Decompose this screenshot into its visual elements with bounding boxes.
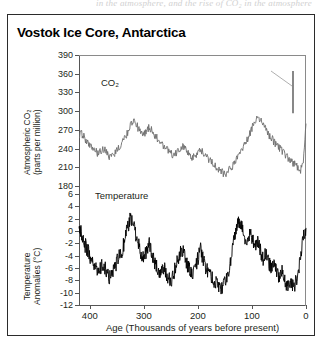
x-tick [252, 305, 253, 309]
co2-tick-label: 240 [58, 145, 73, 154]
x-tick-label: 0 [303, 311, 308, 321]
x-tick-label: 200 [190, 311, 206, 321]
co2-tick-label: 330 [58, 88, 73, 97]
axis-title-line: Atmospheric CO₂ [22, 109, 32, 175]
x-axis-line [79, 305, 307, 306]
temperature-tick-label: 0 [68, 227, 73, 236]
page-bleed-text: in the atmosphere, and the rise of CO₂ i… [96, 0, 321, 10]
plot-area: 390360330300270240210180 6420-2-4-6-8-10… [79, 55, 306, 305]
temperature-tick-label: 6 [68, 190, 73, 199]
temperature-tick-label: 2 [68, 215, 73, 224]
co2-tick-label: 390 [58, 51, 73, 60]
x-tick-label: 100 [244, 311, 260, 321]
axis-title-line: Anomalies (°C) [32, 248, 42, 305]
x-axis-title: Age (Thousands of years before present) [79, 322, 306, 333]
temperature-tick-label: -8 [65, 276, 73, 285]
temperature-axis-title: TemperatureAnomalies (°C) [22, 248, 42, 305]
co2-tick-label: 300 [58, 107, 73, 116]
co2-axis-title: Atmospheric CO₂(parts per million) [22, 109, 42, 175]
x-tick [198, 305, 199, 309]
x-tick [144, 305, 145, 309]
x-tick [306, 305, 307, 309]
temperature-line [79, 213, 306, 294]
modern-co2-leader-line [271, 71, 292, 86]
chart-title: Vostok Ice Core, Antarctica [17, 25, 186, 40]
temperature-tick-label: -2 [65, 239, 73, 248]
x-tick-label: 300 [136, 311, 152, 321]
axis-title-line: Temperature [22, 253, 32, 301]
temperature-tick-label: 4 [68, 202, 73, 211]
co2-tick-label: 210 [58, 163, 73, 172]
figure-page: in the atmosphere, and the rise of CO₂ i… [0, 0, 323, 351]
axis-title-line: (parts per million) [32, 109, 42, 175]
x-tick-label: 400 [82, 311, 98, 321]
temperature-tick-label: -12 [60, 301, 73, 310]
chart-curves [79, 55, 306, 305]
temperature-tick-label: -4 [65, 252, 73, 261]
co2-tick-label: 270 [58, 126, 73, 135]
temperature-tick-label: -6 [65, 264, 73, 273]
co2-tick-label: 360 [58, 70, 73, 79]
temperature-tick-label: -10 [60, 289, 73, 298]
temperature-tick [75, 305, 79, 306]
co2-line [79, 116, 306, 177]
x-tick [90, 305, 91, 309]
